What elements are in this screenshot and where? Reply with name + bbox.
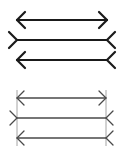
- muller-lyer-diagram: [0, 0, 125, 152]
- fins-out-left-fin-icon: [9, 32, 17, 48]
- arrow-left-fin-right-right-fin-icon: [107, 52, 115, 68]
- fins-out-right-fin-icon: [106, 111, 113, 125]
- fins-out-left-fin-icon: [10, 111, 17, 125]
- arrow-left-fin-right-right-fin-icon: [106, 131, 113, 145]
- fins-out-right-fin-icon: [107, 32, 115, 48]
